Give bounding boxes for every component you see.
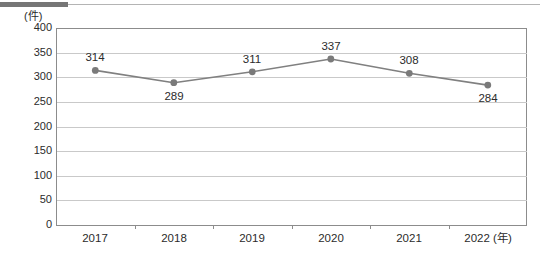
series-line (95, 59, 488, 85)
series-markers (92, 56, 491, 89)
data-point-marker (484, 82, 491, 89)
data-point-marker (249, 68, 256, 75)
data-point-marker (406, 70, 413, 77)
data-value-label: 284 (478, 92, 497, 104)
line-chart: 400350300250200150100500 201720182019202… (0, 0, 540, 259)
data-value-label: 289 (164, 90, 183, 102)
data-point-marker (92, 67, 99, 74)
data-value-label: 311 (243, 53, 261, 65)
data-point-marker (327, 56, 334, 63)
data-value-label: 314 (85, 51, 104, 63)
data-point-marker (170, 79, 177, 86)
data-value-label: 308 (399, 54, 418, 66)
data-value-label: 337 (321, 40, 340, 52)
data-series (0, 0, 540, 259)
